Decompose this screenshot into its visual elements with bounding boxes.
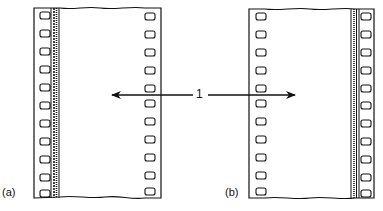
strip-b-outline — [249, 8, 374, 198]
film-strip-a — [34, 7, 161, 198]
strip-a-outline — [34, 7, 161, 198]
film-strip-diagram — [0, 0, 383, 211]
panel-label-a: (a) — [2, 186, 15, 198]
film-strip-b — [249, 8, 374, 198]
panel-label-b: (b) — [225, 186, 238, 198]
callout-number: 1 — [196, 87, 203, 101]
